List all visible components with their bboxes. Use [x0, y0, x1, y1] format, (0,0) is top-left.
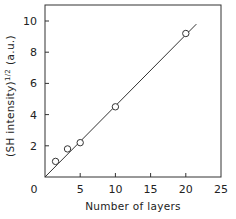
y-tick-label: 6	[30, 77, 37, 90]
plot-frame	[45, 5, 221, 177]
x-axis-title: Number of layers	[85, 200, 181, 212]
fit-line	[45, 24, 196, 177]
y-tick-label: 10	[23, 15, 37, 28]
y-axis-title-units: (a.u.)	[4, 35, 16, 65]
x-tick-label: 15	[144, 183, 158, 196]
x-axis-ticks: 0510152025	[31, 173, 229, 196]
x-tick-label: 0	[31, 183, 38, 196]
y-tick-label: 8	[30, 46, 37, 59]
x-tick-label: 25	[214, 183, 228, 196]
data-point	[112, 104, 118, 110]
data-points	[52, 30, 189, 164]
x-tick-label: 5	[77, 183, 84, 196]
data-point	[183, 30, 189, 36]
x-tick-label: 20	[179, 183, 193, 196]
y-axis-title: (SH intensity)1/2(a.u.)	[4, 35, 16, 157]
chart: 246810 0510152025 Number of layers (SH i…	[0, 0, 236, 219]
y-axis-title-main: (SH intensity)	[4, 81, 16, 157]
data-point	[64, 146, 70, 152]
y-tick-label: 4	[30, 109, 37, 122]
y-axis-title-superscript: 1/2	[4, 69, 12, 81]
data-point	[52, 158, 58, 164]
x-tick-label: 10	[108, 183, 122, 196]
svg-text:(SH intensity)1/2(a.u.): (SH intensity)1/2(a.u.)	[4, 35, 16, 157]
y-tick-label: 2	[30, 140, 37, 153]
data-point	[77, 139, 83, 145]
